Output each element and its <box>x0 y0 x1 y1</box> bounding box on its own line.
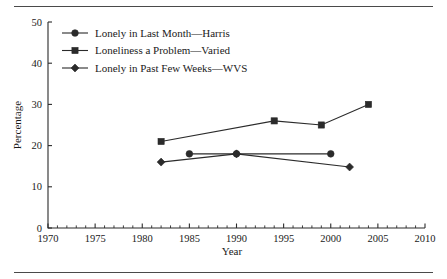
x-tick-label-1970: 1970 <box>38 233 59 244</box>
x-tick-label-2010: 2010 <box>415 233 436 244</box>
y-tick-label-20: 20 <box>32 140 43 151</box>
legend-label-1: Lonely in Last Month—Harris <box>95 27 230 39</box>
chart-legend: Lonely in Last Month—HarrisLoneliness a … <box>62 27 247 74</box>
data-point-2-1999 <box>318 122 324 128</box>
y-tick-label-30: 30 <box>32 99 43 110</box>
x-tick-label-1985: 1985 <box>179 233 200 244</box>
data-point-3-1990 <box>233 150 241 158</box>
data-point-1-2000 <box>327 150 334 157</box>
data-point-2-1982 <box>158 138 164 144</box>
legend-marker-square <box>72 47 78 53</box>
x-tick-label-1980: 1980 <box>132 233 153 244</box>
x-tick-label-1975: 1975 <box>85 233 106 244</box>
legend-marker-circle <box>72 30 79 37</box>
chart-series <box>157 101 371 171</box>
x-tick-label-2005: 2005 <box>367 233 388 244</box>
data-point-3-2002 <box>346 163 354 171</box>
legend-item-2[interactable]: Loneliness a Problem—Varied <box>62 44 231 56</box>
data-point-1-1985 <box>186 150 193 157</box>
data-point-2-2004 <box>365 101 371 107</box>
legend-label-2: Loneliness a Problem—Varied <box>95 44 231 56</box>
data-point-2-1994 <box>271 118 277 124</box>
y-tick-label-50: 50 <box>32 17 43 28</box>
x-tick-label-1990: 1990 <box>226 233 247 244</box>
legend-item-3[interactable]: Lonely in Past Few Weeks—WVS <box>62 62 247 74</box>
figure-frame: 0102030405019701975198019851990199520002… <box>0 0 447 279</box>
chart-plot-area: 0102030405019701975198019851990199520002… <box>0 0 447 279</box>
y-tick-label-0: 0 <box>37 223 42 234</box>
y-tick-label-10: 10 <box>32 181 43 192</box>
series-2 <box>158 101 372 144</box>
legend-item-1[interactable]: Lonely in Last Month—Harris <box>62 27 230 39</box>
chart-tick-labels: 0102030405019701975198019851990199520002… <box>32 17 436 244</box>
legend-marker-diamond <box>71 64 79 72</box>
x-tick-label-1995: 1995 <box>273 233 294 244</box>
data-point-3-1982 <box>157 158 165 166</box>
y-axis-title: Percentage <box>11 101 23 149</box>
legend-label-3: Lonely in Past Few Weeks—WVS <box>95 62 247 74</box>
x-axis-title: Year <box>222 245 243 257</box>
x-tick-label-2000: 2000 <box>320 233 341 244</box>
series-line-2 <box>161 104 368 141</box>
y-tick-label-40: 40 <box>32 58 43 69</box>
line-chart: 0102030405019701975198019851990199520002… <box>0 0 447 279</box>
